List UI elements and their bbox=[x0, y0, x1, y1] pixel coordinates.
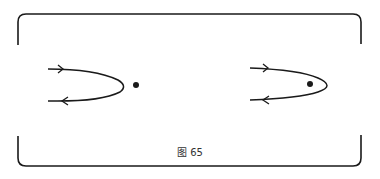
point-right bbox=[307, 81, 313, 87]
right-trajectory bbox=[250, 64, 327, 104]
top-bracket bbox=[18, 14, 361, 45]
point-left bbox=[133, 82, 139, 88]
figure-caption: 图 65 bbox=[0, 144, 380, 159]
left-trajectory bbox=[48, 65, 139, 105]
arrow-left-icon bbox=[263, 96, 269, 104]
